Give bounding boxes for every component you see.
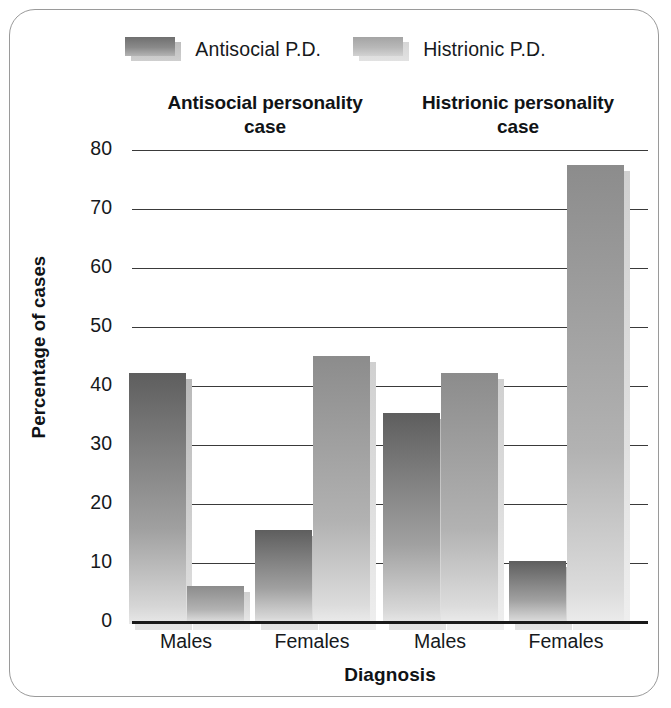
panel-title-line1: Antisocial personality <box>167 92 362 113</box>
bar-histrionic-p-d-females-3[interactable] <box>567 165 624 624</box>
bar-face <box>313 356 370 624</box>
legend-entry-histrionic[interactable]: Histrionic P.D. <box>353 37 546 61</box>
y-tick-label: 20 <box>60 491 112 514</box>
bar-antisocial-p-d-females-1[interactable] <box>255 530 312 624</box>
bar-antisocial-p-d-males-0[interactable] <box>129 373 186 624</box>
legend-entry-antisocial[interactable]: Antisocial P.D. <box>125 37 321 61</box>
y-tick-label: 0 <box>60 609 112 632</box>
legend-label-histrionic: Histrionic P.D. <box>423 38 546 61</box>
chart-legend: Antisocial P.D. Histrionic P.D. <box>0 34 671 64</box>
x-tick-label: Females <box>496 630 636 653</box>
panel-title-line2: case <box>244 116 286 137</box>
panel-title-histrionic-case: Histrionic personality case <box>393 91 643 139</box>
bar-face <box>255 530 312 624</box>
y-tick-label: 80 <box>60 137 112 160</box>
antisocial-swatch-icon <box>125 37 181 61</box>
panel-title-line2: case <box>497 116 539 137</box>
bar-face <box>509 561 566 624</box>
bar-histrionic-p-d-females-1[interactable] <box>313 356 370 624</box>
bar-face <box>383 413 440 624</box>
y-tick-label: 40 <box>60 373 112 396</box>
panel-title-line1: Histrionic personality <box>422 92 614 113</box>
bar-antisocial-p-d-males-2[interactable] <box>383 413 440 624</box>
bar-antisocial-p-d-females-3[interactable] <box>509 561 566 624</box>
x-axis-title: Diagnosis <box>132 664 648 686</box>
x-tick-label: Males <box>370 630 510 653</box>
y-tick-label: 50 <box>60 314 112 337</box>
legend-label-antisocial: Antisocial P.D. <box>195 38 321 61</box>
y-tick-label: 30 <box>60 432 112 455</box>
x-tick-label: Females <box>242 630 382 653</box>
x-axis-line <box>132 621 648 624</box>
bar-face <box>187 586 244 624</box>
x-tick-label: Males <box>116 630 256 653</box>
y-tick-label: 70 <box>60 196 112 219</box>
histrionic-swatch-icon <box>353 37 409 61</box>
antisocial-swatch-face <box>125 37 175 56</box>
panel-title-antisocial-case: Antisocial personality case <box>140 91 390 139</box>
chart-figure: Antisocial P.D. Histrionic P.D. Antisoci… <box>0 0 671 708</box>
bar-face <box>567 165 624 624</box>
bar-histrionic-p-d-males-2[interactable] <box>441 373 498 624</box>
bar-face <box>441 373 498 624</box>
plot-area <box>132 148 648 624</box>
bar-histrionic-p-d-males-0[interactable] <box>187 586 244 624</box>
y-tick-label: 60 <box>60 255 112 278</box>
gridline <box>132 150 648 151</box>
y-tick-label: 10 <box>60 550 112 573</box>
histrionic-swatch-face <box>353 37 403 56</box>
y-axis-title: Percentage of cases <box>28 237 50 457</box>
bar-face <box>129 373 186 624</box>
